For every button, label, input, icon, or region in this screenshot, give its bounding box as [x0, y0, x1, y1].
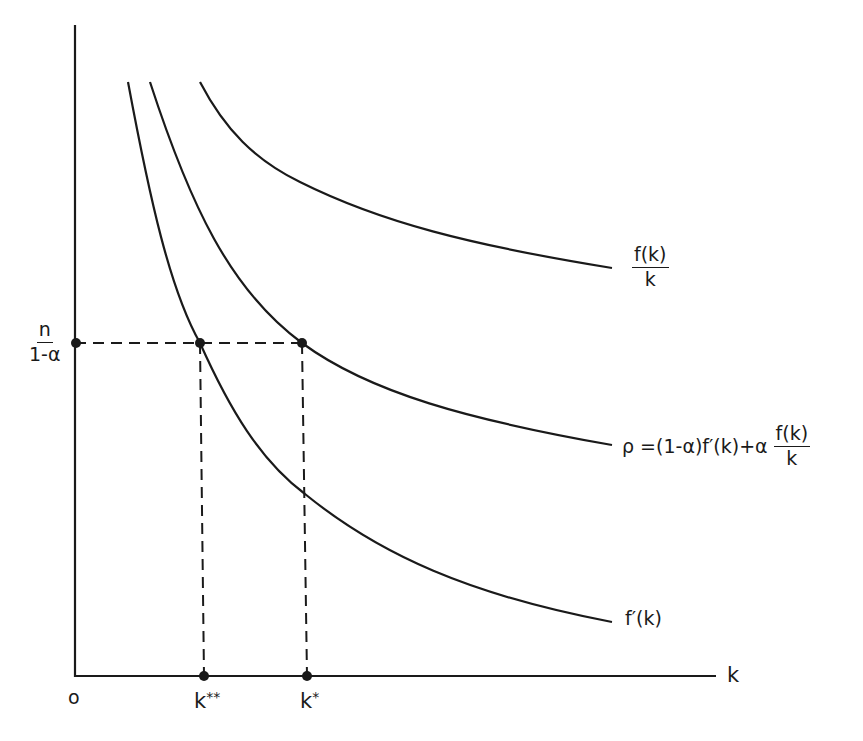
curve-rho — [150, 82, 612, 445]
intersection-dot-k-double-star — [195, 338, 205, 348]
y-tick-label: n 1-α — [29, 320, 60, 365]
label-rho-numerator: f(k) — [774, 424, 811, 447]
x-tick-base: k — [194, 689, 206, 713]
x-tick-label-k-star: k* — [300, 690, 319, 712]
origin-label: o — [68, 688, 80, 707]
label-rho-fraction: f(k) k — [774, 424, 811, 469]
x-tick-dot-k-star — [302, 671, 312, 681]
label-rho-denominator: k — [786, 447, 797, 469]
label-average-product-denominator: k — [645, 268, 656, 290]
label-marginal-product: f′(k) — [625, 609, 662, 628]
label-average-product: f(k) k — [632, 245, 669, 290]
label-rho-equation: ρ =(1-α)f′(k)+α f(k) k — [622, 424, 810, 469]
x-tick-dot-k-double-star — [199, 671, 209, 681]
diagram-canvas — [0, 0, 863, 741]
x-tick-base: k — [300, 689, 312, 713]
y-tick-denominator: 1-α — [29, 343, 60, 365]
curve-average-product — [200, 82, 612, 268]
x-tick-superscript: * — [312, 689, 319, 705]
x-axis-label: k — [727, 665, 739, 686]
intersection-dot-k-star — [297, 338, 307, 348]
x-tick-superscript: ** — [206, 689, 220, 705]
label-average-product-numerator: f(k) — [632, 245, 669, 268]
vertical-dashed-guide-k-star — [302, 343, 307, 676]
x-tick-label-k-double-star: k** — [194, 690, 220, 712]
vertical-dashed-guide-k-double-star — [200, 343, 204, 676]
y-tick-numerator: n — [37, 320, 53, 343]
y-tick-dot — [71, 338, 81, 348]
label-rho-prefix: ρ =(1-α)f′(k)+α — [622, 435, 768, 457]
